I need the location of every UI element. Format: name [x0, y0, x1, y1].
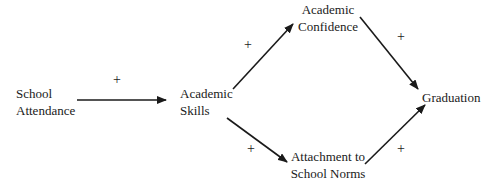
arrow-skills-to-confidence [233, 24, 293, 89]
node-label-line: Skills [180, 102, 233, 119]
node-label-line: Confidence [293, 18, 363, 35]
node-graduation: Graduation [422, 89, 480, 106]
node-label-line: School [16, 85, 75, 102]
node-label-line: School Norms [290, 165, 366, 182]
node-attachment-to-school-norms: Attachment to School Norms [290, 148, 366, 182]
arrow-confidence-to-graduation [360, 17, 418, 89]
edge-sign-confidence-graduation: + [397, 30, 405, 44]
node-school-attendance: School Attendance [16, 85, 75, 119]
path-diagram: School Attendance Academic Skills Academ… [0, 0, 495, 185]
node-academic-confidence: Academic Confidence [293, 1, 363, 35]
arrow-skills-to-attachment [227, 118, 287, 162]
edge-sign-skills-attachment: + [247, 142, 255, 156]
node-academic-skills: Academic Skills [180, 85, 233, 119]
edge-sign-attachment-graduation: + [397, 142, 405, 156]
arrow-attachment-to-graduation [365, 105, 425, 164]
node-label-line: Academic [293, 1, 363, 18]
edge-sign-attendance-skills: + [113, 73, 121, 87]
node-label-line: Academic [180, 85, 233, 102]
edge-sign-skills-confidence: + [244, 38, 252, 52]
node-label-line: Graduation [422, 89, 480, 106]
node-label-line: Attachment to [290, 148, 366, 165]
node-label-line: Attendance [16, 102, 75, 119]
